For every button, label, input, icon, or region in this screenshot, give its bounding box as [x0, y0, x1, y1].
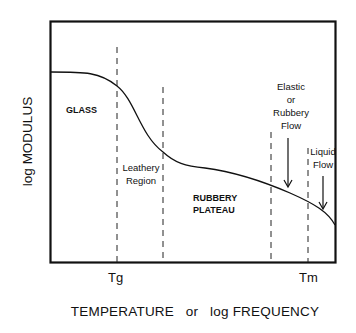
- region-label-glass: GLASS: [66, 104, 97, 116]
- region-label-liquid-flow: Liquid Flow: [305, 145, 341, 171]
- y-axis-label: log MODULUS: [20, 92, 35, 192]
- plot-frame: [51, 22, 336, 263]
- region-label-leathery: Leathery Region: [119, 161, 163, 187]
- region-label-elastic-flow: Elastic or Rubbery Flow: [266, 80, 316, 132]
- x-tick-tm: Tm: [299, 270, 318, 285]
- x-axis-label: TEMPERATURE or log FREQUENCY: [60, 304, 330, 319]
- x-tick-tg: Tg: [108, 270, 123, 285]
- region-label-rubbery-plateau: RUBBERY PLATEAU: [193, 192, 237, 216]
